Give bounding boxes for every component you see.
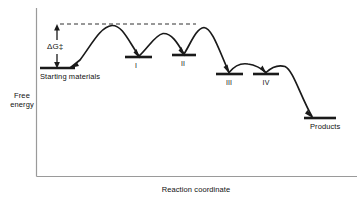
segment-iii-to-iv [229, 64, 266, 73]
x-axis-label: Reaction coordinate [162, 186, 231, 194]
intermediate-label-i: I [135, 62, 137, 70]
segment-start-to-i [70, 25, 139, 68]
reaction-coordinate-figure: Freeenergy Reaction coordinate ΔG‡ Start… [0, 0, 361, 200]
energy-diagram-svg [0, 0, 361, 200]
segment-ii-to-iii [184, 28, 229, 73]
y-axis-label-line2: energy [10, 100, 34, 109]
free-energy-curve [70, 25, 312, 116]
activation-energy-label: ΔG‡ [47, 43, 63, 51]
y-axis-label: Freeenergy [8, 92, 36, 109]
intermediate-label-iv: IV [263, 79, 270, 87]
starting-materials-label: Starting materials [40, 73, 100, 81]
intermediate-label-iii: III [226, 79, 232, 87]
curve-arrowheads [70, 47, 313, 118]
segment-i-to-ii [139, 33, 184, 56]
intermediate-label-ii: II [181, 60, 185, 68]
products-label: Products [310, 123, 340, 131]
energy-level-plateaus [40, 55, 336, 118]
